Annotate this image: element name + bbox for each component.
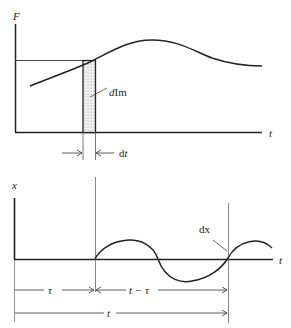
dx-label: dx — [199, 223, 211, 235]
t-minus-tau-label: t − τ — [129, 284, 150, 296]
response-x-label: t — [279, 254, 283, 266]
response-y-label: x — [11, 179, 17, 191]
tau-label: τ — [48, 284, 53, 296]
t-dimension — [15, 310, 227, 316]
dt-label: dt — [119, 147, 129, 159]
impulse-element — [83, 61, 96, 133]
response-wave — [95, 240, 272, 282]
tau-dimension — [15, 287, 101, 293]
response-plot: x t dx τ t − τ — [11, 177, 283, 323]
impulse-response-diagram: F t dIm dt x t — [0, 0, 291, 328]
dt-arrow-right — [96, 150, 114, 156]
force-y-label: F — [12, 10, 20, 22]
force-x-label: t — [269, 127, 273, 139]
t-minus-tau-dimension — [96, 287, 227, 293]
dt-arrow-left — [62, 150, 82, 156]
dx-leader-line — [213, 240, 227, 251]
t-label: t — [107, 307, 111, 319]
element-label: dIm — [109, 86, 127, 98]
force-curve — [30, 40, 262, 86]
force-plot: F t dIm dt — [12, 10, 273, 160]
